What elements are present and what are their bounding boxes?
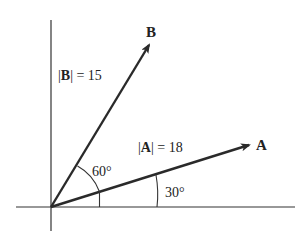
angle-label-30: 30° (165, 185, 185, 200)
vector-b-name: B (146, 24, 156, 40)
vector-a-name: A (256, 137, 267, 153)
vector-diagram: B A |B| = 15 |A| = 18 60° 30° (0, 0, 303, 234)
magnitude-b-value: | = 15 (70, 68, 102, 83)
magnitude-a-value: | = 18 (151, 140, 183, 155)
magnitude-b-letter: B (61, 68, 70, 83)
magnitude-a-label: |A| = 18 (138, 140, 183, 155)
angle-label-60: 60° (92, 164, 112, 179)
angle-arc-30 (156, 175, 158, 207)
magnitude-b-label: |B| = 15 (58, 68, 102, 83)
